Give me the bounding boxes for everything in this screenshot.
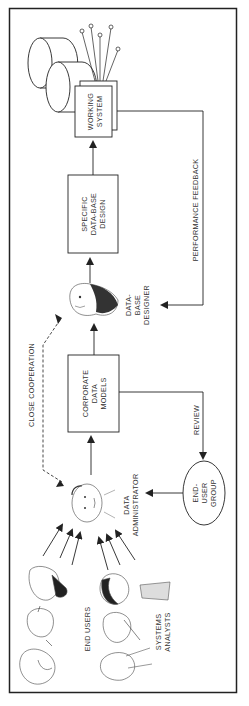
close-cooperation-label: CLOSE COOPERATION [27,343,36,427]
db-designer-label-2: BASE [133,295,142,315]
corporate-data-models-label-2: DATA [90,384,99,403]
end-user-group-label-2: USER [200,482,209,503]
specific-db-design-node: SPECIFIC DATA-BASE DESIGN [68,175,118,253]
db-designer-label-3: DESIGNER [142,285,151,325]
close-cooperation-edge [43,320,62,482]
people-to-administrator-arrows [43,525,135,570]
performance-feedback-label: PERFORMANCE FEEDBACK [191,159,200,262]
data-administrator-label-2: ADMINISTRATOR [131,474,140,537]
end-users-label: END USERS [83,607,92,652]
corporate-data-models-label-3: MODELS [99,377,108,409]
db-designer-label-1: DATA- [124,294,133,316]
review-edge [119,392,203,458]
systems-analysts-label-2: ANALYSTS [163,612,172,651]
working-system-label-2: SYSTEM [95,96,104,127]
close-cooperation-arrowhead-up [55,314,62,324]
corporate-data-models-node: CORPORATE DATA MODELS [68,355,119,432]
close-cooperation-arrowhead-down [56,480,64,487]
review-label: REVIEW [192,405,201,435]
end-user-group-label-3: GROUP [209,479,218,507]
specific-db-design-label-3: DESIGN [98,199,107,228]
end-user-group-node: END- USER GROUP [183,461,225,525]
specific-db-design-label-2: DATA-BASE [89,193,98,235]
specific-db-design-label-1: SPECIFIC [80,196,89,232]
working-system-label-1: WORKING [86,93,95,130]
data-administrator-label-1: DATA [122,495,131,514]
working-system-node: WORKING SYSTEM [75,81,117,137]
systems-analysts-label-1: SYSTEMS [154,614,163,650]
corporate-data-models-label-1: CORPORATE [81,370,90,418]
diagram-canvas: WORKING SYSTEM PERFORMANCE FEEDBACK SPEC… [0,0,249,706]
end-users-faces-icon [20,566,67,684]
db-designer-face-icon [70,283,118,315]
data-administrator-face-icon [72,484,115,522]
end-user-group-label-1: END- [191,483,200,502]
